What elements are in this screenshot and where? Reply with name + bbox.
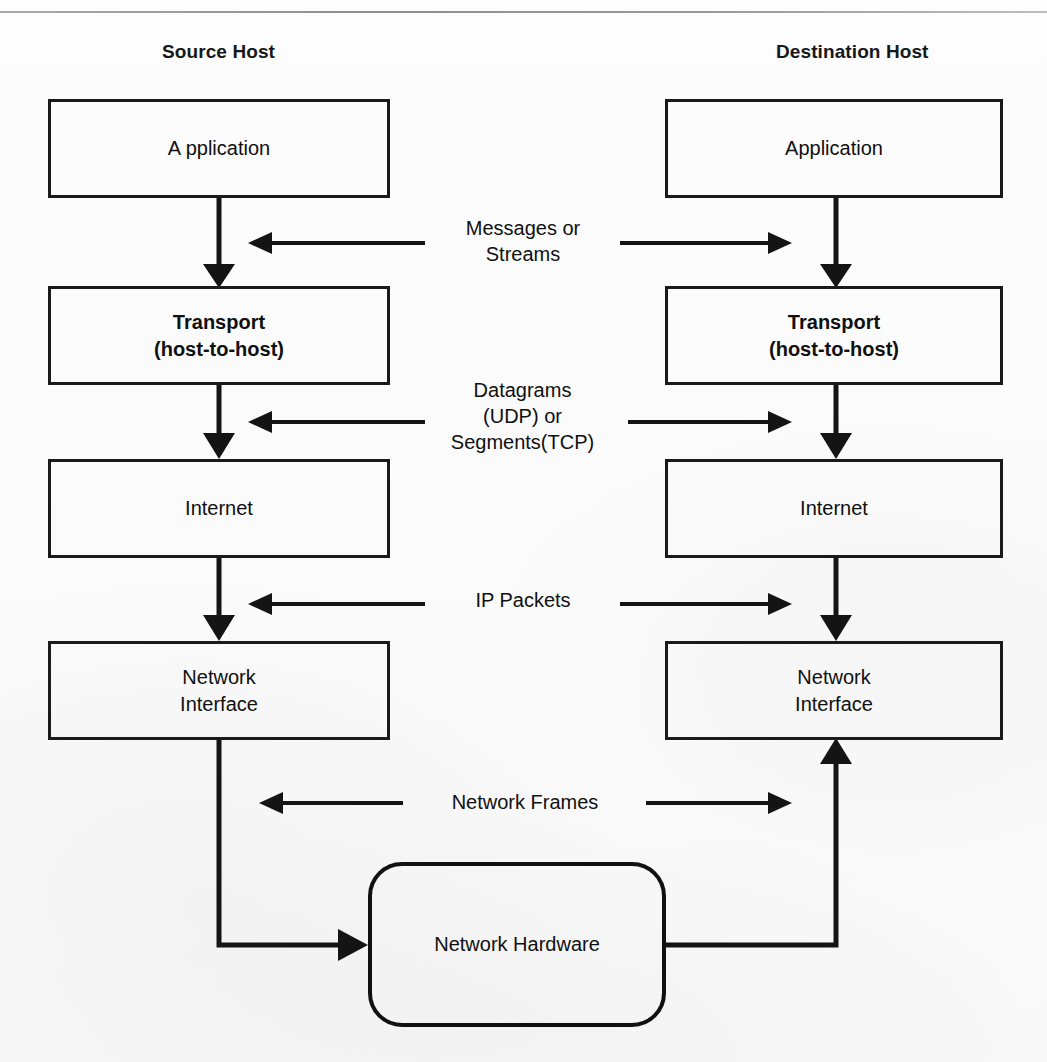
source-layer-internet-label: Internet	[179, 495, 259, 521]
peer-arrow-left-messages	[248, 232, 425, 254]
destination-flow-internet-to-network-interface	[820, 558, 852, 641]
column-title-destination-host: Destination Host	[776, 41, 929, 63]
source-flow-internet-to-network-interface	[203, 558, 235, 641]
source-layer-transport-label: Transport (host-to-host)	[148, 309, 290, 362]
pdu-label-network-frames: Network Frames	[405, 789, 645, 815]
column-title-source-host: Source Host	[162, 41, 275, 63]
destination-layer-network-interface[interactable]: Network Interface	[665, 641, 1003, 740]
destination-layer-internet[interactable]: Internet	[665, 459, 1003, 558]
network-hardware-label: Network Hardware	[434, 933, 600, 956]
destination-flow-application-to-transport	[820, 198, 852, 288]
pdu-label-datagrams-segments: Datagrams (UDP) or Segments(TCP)	[420, 377, 625, 455]
destination-layer-transport-label: Transport (host-to-host)	[763, 309, 905, 362]
source-layer-transport[interactable]: Transport (host-to-host)	[48, 286, 390, 385]
source-layer-internet[interactable]: Internet	[48, 459, 390, 558]
peer-arrow-left-network-frames	[259, 792, 403, 814]
source-flow-application-to-transport	[203, 198, 235, 288]
source-layer-application-label: A pplication	[162, 135, 276, 161]
destination-layer-network-interface-label: Network Interface	[789, 664, 879, 717]
peer-arrow-left-datagrams	[248, 411, 425, 433]
peer-arrow-right-datagrams	[628, 411, 792, 433]
pdu-label-ip-packets: IP Packets	[428, 587, 618, 613]
source-layer-application[interactable]: A pplication	[48, 99, 390, 198]
destination-layer-internet-label: Internet	[794, 495, 874, 521]
destination-layer-application[interactable]: Application	[665, 99, 1003, 198]
peer-arrow-right-network-frames	[646, 792, 792, 814]
destination-flow-hardware-to-network-interface	[666, 738, 852, 945]
destination-layer-transport[interactable]: Transport (host-to-host)	[665, 286, 1003, 385]
pdu-label-messages-or-streams: Messages or Streams	[428, 215, 618, 267]
source-flow-network-interface-to-hardware	[219, 740, 368, 961]
diagram-canvas: Source Host Destination Host A pplicatio…	[0, 0, 1047, 1062]
source-flow-transport-to-internet	[203, 385, 235, 459]
destination-layer-application-label: Application	[779, 135, 889, 161]
source-layer-network-interface[interactable]: Network Interface	[48, 641, 390, 740]
peer-arrow-right-messages	[620, 232, 792, 254]
source-layer-network-interface-label: Network Interface	[174, 664, 264, 717]
peer-arrow-right-ip-packets	[620, 593, 792, 615]
network-hardware-box[interactable]: Network Hardware	[368, 862, 666, 1027]
peer-arrow-left-ip-packets	[248, 593, 425, 615]
destination-flow-transport-to-internet	[820, 385, 852, 459]
